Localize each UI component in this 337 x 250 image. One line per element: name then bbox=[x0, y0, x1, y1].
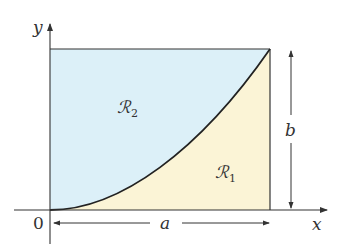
region-r2-letter: ℛ bbox=[117, 97, 132, 117]
region-r1-letter: ℛ bbox=[215, 162, 230, 182]
dimension-b-label: b bbox=[285, 120, 296, 140]
dimension-a-label: a bbox=[160, 213, 170, 233]
x-axis-label: x bbox=[312, 214, 322, 234]
origin-label: 0 bbox=[33, 213, 44, 233]
region-r2-subscript: 2 bbox=[131, 107, 138, 120]
y-axis-label: y bbox=[32, 17, 43, 37]
region-diagram: y x 0 a b ℛ 2 ℛ 1 bbox=[0, 0, 337, 250]
region-r1-subscript: 1 bbox=[229, 172, 236, 185]
